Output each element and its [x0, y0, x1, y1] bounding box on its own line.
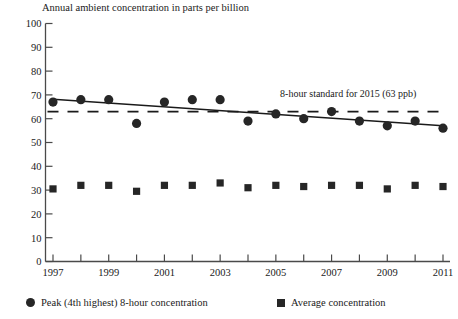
legend-item-average: Average concentration [277, 297, 386, 308]
x-axis-tick-label: 2001 [154, 267, 175, 278]
data-point-peak [48, 97, 57, 106]
data-point-peak [76, 95, 85, 104]
data-point-peak [383, 121, 392, 130]
data-point-peak [132, 119, 141, 128]
x-axis-tick-label: 1997 [43, 267, 64, 278]
y-axis-tick-label: 50 [31, 137, 42, 148]
legend-item-peak: Peak (4th highest) 8-hour concentration [26, 297, 208, 308]
y-axis-tick-label: 100 [26, 18, 42, 29]
annotation-standard-label: 8-hour standard for 2015 (63 ppb) [280, 88, 416, 100]
y-axis-tick-label: 30 [31, 185, 42, 196]
legend-label-peak: Peak (4th highest) 8-hour concentration [41, 297, 208, 308]
data-point-average [189, 182, 196, 189]
data-point-average [272, 182, 279, 189]
data-point-peak [438, 124, 447, 133]
data-point-average [412, 182, 419, 189]
data-point-average [439, 183, 446, 190]
y-axis-tick-label: 60 [31, 114, 42, 125]
data-point-peak [160, 97, 169, 106]
data-point-average [384, 185, 391, 192]
series-peak-concentration [48, 95, 447, 133]
data-point-peak [355, 116, 364, 125]
data-point-peak [188, 95, 197, 104]
x-axis: 19971999200120032005200720092011 [43, 255, 454, 278]
y-axis-tick-label: 10 [31, 233, 42, 244]
data-point-average [328, 182, 335, 189]
data-point-average [49, 185, 56, 192]
data-point-average [161, 182, 168, 189]
data-point-average [300, 183, 307, 190]
x-axis-tick-label: 2003 [210, 267, 231, 278]
data-point-average [217, 179, 224, 186]
data-point-average [105, 182, 112, 189]
y-axis-tick-label: 20 [31, 209, 42, 220]
y-axis-tick-label: 0 [36, 256, 41, 267]
square-marker-icon [277, 299, 285, 307]
data-point-peak [299, 114, 308, 123]
x-axis-tick-label: 2009 [377, 267, 398, 278]
circle-marker-icon [26, 298, 35, 307]
data-point-average [356, 182, 363, 189]
x-axis-tick-label: 2007 [321, 267, 342, 278]
chart-container: Annual ambient concentration in parts pe… [0, 0, 458, 319]
chart-legend: Peak (4th highest) 8-hour concentration … [0, 297, 458, 317]
data-point-peak [104, 95, 113, 104]
y-axis: 0102030405060708090100 [26, 18, 53, 267]
y-axis-tick-label: 90 [31, 42, 42, 53]
data-point-average [244, 184, 251, 191]
data-point-peak [216, 95, 225, 104]
annotation-label: 8-hour standard for 2015 (63 ppb) [280, 88, 416, 100]
x-axis-tick-label: 2005 [265, 267, 286, 278]
data-point-peak [411, 116, 420, 125]
legend-label-average: Average concentration [291, 297, 386, 308]
x-axis-tick-label: 2011 [433, 267, 454, 278]
data-point-average [133, 188, 140, 195]
data-point-peak [327, 107, 336, 116]
y-axis-tick-label: 40 [31, 161, 42, 172]
x-axis-tick-label: 1999 [98, 267, 119, 278]
data-point-peak [243, 116, 252, 125]
series-average-concentration [49, 179, 446, 195]
y-axis-tick-label: 80 [31, 66, 42, 77]
y-axis-tick-label: 70 [31, 90, 42, 101]
data-point-average [77, 182, 84, 189]
data-point-peak [271, 109, 280, 118]
chart-plot-area: 0102030405060708090100 19971999200120032… [0, 0, 458, 319]
